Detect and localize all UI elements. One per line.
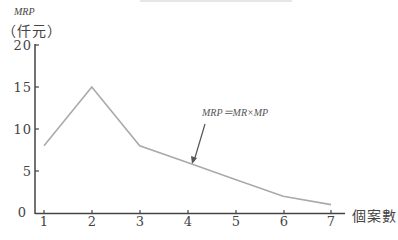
- y-tick-label: 15: [2, 80, 32, 95]
- y-tick-label: 5: [2, 164, 32, 179]
- x-axis-label: 個案數: [352, 205, 397, 225]
- x-tick-label: 3: [130, 214, 150, 229]
- y-axis-label: MRP: [14, 6, 35, 17]
- y-axis-unit: （仟元）: [2, 20, 62, 40]
- annotation-label: MRP＝MR×MP: [202, 104, 268, 119]
- x-ticks: [44, 210, 331, 213]
- y-tick-label: 10: [2, 122, 32, 137]
- x-tick-label: 5: [226, 214, 246, 229]
- y-tick-label: 20: [2, 38, 32, 53]
- mrp-line: [44, 87, 331, 205]
- x-tick-label: 7: [321, 214, 341, 229]
- x-tick-label: 1: [34, 214, 54, 229]
- y-tick-label: 0: [0, 205, 27, 220]
- arrow-head-icon: [191, 156, 197, 164]
- x-tick-label: 6: [274, 214, 294, 229]
- annotation-arrow: [194, 124, 205, 161]
- x-tick-label: 2: [82, 214, 102, 229]
- x-tick-label: 4: [178, 214, 198, 229]
